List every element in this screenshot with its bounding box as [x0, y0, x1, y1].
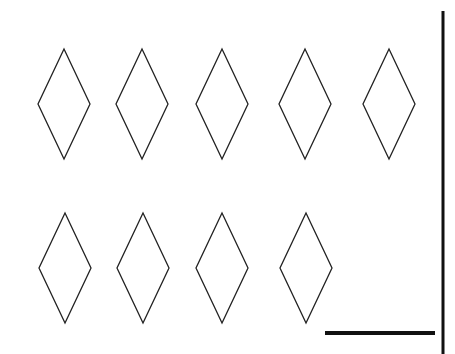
- diamond-shape: [196, 213, 248, 323]
- diamond-shape: [196, 49, 248, 159]
- diamond-shape: [38, 49, 90, 159]
- diamond-shape: [280, 213, 332, 323]
- diamond-shape: [363, 49, 415, 159]
- diamond-shape: [279, 49, 331, 159]
- diamond-shape: [116, 49, 168, 159]
- diamond-shape: [117, 213, 169, 323]
- diamond-shape: [39, 213, 91, 323]
- worksheet-canvas: [0, 0, 455, 354]
